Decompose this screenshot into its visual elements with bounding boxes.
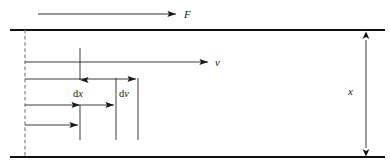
velocity-label: v [215, 56, 220, 68]
svg-text:dx: dx [73, 88, 83, 99]
thickness-arrowhead-top [363, 32, 370, 40]
thickness-arrowhead-bottom [363, 149, 370, 157]
force-label: F [183, 8, 191, 20]
shear-flow-diagram: F v x dx dv [0, 0, 390, 166]
dv-label-v: v [124, 88, 129, 99]
figure-container: F v x dx dv [0, 0, 390, 166]
dx-label-x: x [77, 88, 83, 99]
dv-label: dv [119, 88, 129, 99]
dx-label: dx [73, 88, 83, 99]
svg-text:dv: dv [119, 88, 129, 99]
thickness-label: x [347, 85, 353, 97]
